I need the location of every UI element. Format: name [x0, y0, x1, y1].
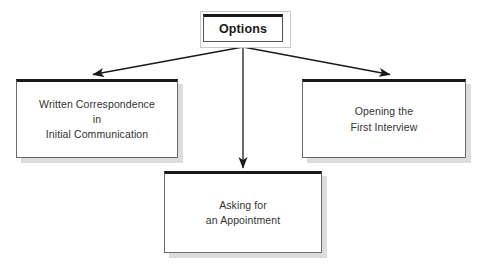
node-line: Opening the [355, 105, 413, 117]
node-opening-first-interview-label: Opening the First Interview [351, 104, 418, 134]
node-written-correspondence[interactable]: Written Correspondence in Initial Commun… [16, 79, 178, 158]
node-line: Initial Communication [46, 128, 148, 140]
node-line: Asking for [219, 199, 267, 211]
node-asking-for-appointment[interactable]: Asking for an Appointment [164, 171, 322, 253]
node-line: Written Correspondence [39, 98, 155, 110]
node-line: in [93, 113, 101, 125]
node-written-correspondence-label: Written Correspondence in Initial Commun… [39, 97, 155, 143]
connector-options-to-right [243, 47, 390, 75]
node-line: First Interview [351, 121, 418, 133]
node-line: an Appointment [206, 214, 280, 226]
node-asking-for-appointment-label: Asking for an Appointment [206, 198, 280, 228]
diagram-canvas: Options Written Correspondence in Initia… [0, 0, 482, 276]
node-options[interactable]: Options [203, 14, 283, 42]
node-options-label: Options [219, 20, 267, 38]
connector-options-to-left [93, 47, 243, 75]
node-opening-first-interview[interactable]: Opening the First Interview [302, 79, 466, 158]
